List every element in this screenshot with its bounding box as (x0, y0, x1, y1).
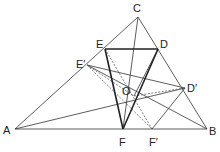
point-label-O: O (122, 85, 131, 97)
segment-D1-F1 (152, 88, 185, 129)
point-label-E: E (96, 38, 103, 50)
point-label-F: F (119, 136, 126, 148)
point-label-D1: D′ (187, 82, 197, 94)
point-labels: ABCEDE′D′FF′O (3, 2, 216, 148)
thick-segment-F-E (105, 49, 123, 129)
point-label-B: B (209, 125, 216, 137)
point-label-F1: F′ (149, 136, 158, 148)
point-label-C: C (133, 2, 141, 14)
dashed-lines (87, 49, 185, 129)
segment-A-D1 (15, 88, 185, 129)
dashed-segment-O-D1 (134, 88, 185, 96)
geometry-diagram: ABCEDE′D′FF′O (0, 0, 220, 152)
point-label-D: D (160, 38, 168, 50)
point-label-E1: E′ (76, 58, 85, 70)
dashed-segment-E1-F1 (87, 65, 152, 129)
segment-E1-D1 (87, 65, 185, 88)
point-label-A: A (3, 124, 11, 136)
